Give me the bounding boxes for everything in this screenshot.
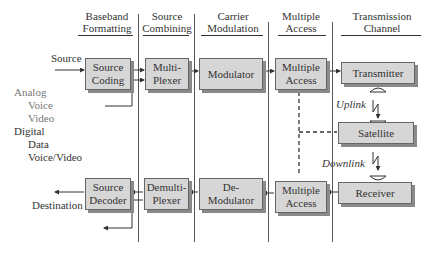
- digital-voice-video-label: Voice/Video: [28, 151, 82, 164]
- multiple-access-tx-block[interactable]: Multiple Access: [275, 58, 327, 90]
- block-label: Receiver: [355, 187, 394, 200]
- block-label: Plexer: [152, 194, 180, 207]
- block-label: De-: [223, 181, 240, 194]
- block-label: Multiple: [282, 184, 320, 197]
- multiplexer-block[interactable]: Multi- Plexer: [145, 58, 189, 90]
- source-coding-block[interactable]: Source Coding: [85, 58, 131, 90]
- satellite-block[interactable]: Satellite: [338, 122, 414, 144]
- block-label: Satellite: [358, 127, 394, 140]
- transmitter-block[interactable]: Transmitter: [341, 62, 415, 84]
- block-label: Access: [285, 74, 316, 87]
- analog-label: Analog: [14, 86, 46, 99]
- block-label: Decoder: [89, 194, 126, 207]
- block-label: Access: [285, 197, 316, 210]
- receiver-block[interactable]: Receiver: [338, 182, 412, 204]
- block-label: Source: [93, 61, 124, 74]
- demultiplexer-block[interactable]: Demulti- Plexer: [144, 178, 189, 210]
- block-label: Demulti-: [147, 181, 187, 194]
- analog-voice-label: Voice: [28, 99, 53, 112]
- demodulator-block[interactable]: De- Modulator: [199, 178, 263, 210]
- block-label: Transmitter: [353, 67, 404, 80]
- destination-label: Destination: [32, 199, 83, 212]
- source-label: Source: [51, 52, 82, 65]
- block-label: Coding: [92, 74, 124, 87]
- downlink-label: Downlink: [322, 157, 365, 170]
- block-label: Modulator: [208, 194, 254, 207]
- digital-label: Digital: [14, 125, 45, 138]
- block-label: Plexer: [153, 74, 181, 87]
- block-label: Modulator: [208, 68, 254, 81]
- modulator-block[interactable]: Modulator: [199, 58, 263, 90]
- digital-data-label: Data: [28, 138, 49, 151]
- block-label: Multi-: [153, 61, 181, 74]
- block-label: Source: [93, 181, 124, 194]
- source-decoder-block[interactable]: Source Decoder: [85, 178, 131, 210]
- multiple-access-rx-block[interactable]: Multiple Access: [275, 181, 327, 213]
- uplink-label: Uplink: [336, 98, 366, 111]
- analog-video-label: Video: [28, 112, 54, 125]
- block-label: Multiple: [282, 61, 320, 74]
